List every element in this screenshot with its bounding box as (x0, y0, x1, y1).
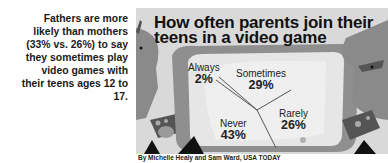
slice-value: 26% (279, 119, 308, 132)
caption-line: likely than mothers (0, 25, 128, 38)
title-line-2: teens in a video game (154, 30, 373, 45)
chart-title: How often parents join their teens in a … (154, 15, 373, 45)
slice-label-always: Always 2% (188, 62, 220, 86)
slice-label-rarely: Rarely 26% (279, 108, 308, 132)
slice-label-sometimes: Sometimes 29% (236, 68, 286, 92)
slice-value: 2% (188, 73, 220, 86)
caption-line: (33% vs. 26%) to say (0, 38, 128, 51)
infographic: How often parents join their teens in a … (136, 8, 388, 154)
byline: By Michelle Healy and Sam Ward, USA TODA… (138, 154, 281, 161)
slice-label-never: Never 43% (220, 118, 247, 142)
caption-line: video games with (0, 64, 128, 77)
caption-line: their teens ages 12 to (0, 77, 128, 90)
caption-line: 17. (0, 90, 128, 103)
slice-value: 43% (220, 129, 247, 142)
slice-value: 29% (236, 79, 286, 92)
caption-line: they sometimes play (0, 51, 128, 64)
side-caption: Fathers are more likely than mothers (33… (0, 12, 128, 103)
caption-line: Fathers are more (0, 12, 128, 25)
